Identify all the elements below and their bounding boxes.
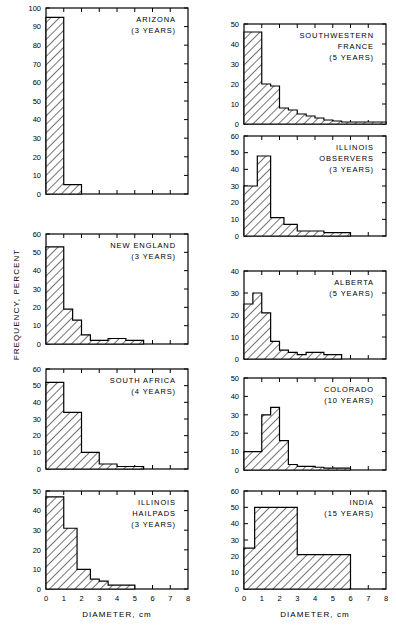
svg-text:0: 0 (235, 585, 239, 594)
svg-text:HAILPADS: HAILPADS (132, 509, 176, 518)
svg-text:INDIA: INDIA (349, 498, 374, 507)
svg-text:10: 10 (231, 215, 239, 224)
svg-text:40: 40 (231, 165, 239, 174)
svg-text:10: 10 (231, 568, 239, 577)
svg-text:6: 6 (348, 594, 352, 603)
svg-text:ARIZONA: ARIZONA (136, 15, 176, 24)
svg-text:30: 30 (33, 134, 41, 143)
svg-text:20: 20 (33, 303, 41, 312)
svg-text:1: 1 (62, 594, 66, 603)
svg-text:2: 2 (277, 594, 281, 603)
svg-text:30: 30 (231, 289, 239, 298)
svg-text:(3 YEARS): (3 YEARS) (131, 520, 176, 529)
svg-text:20: 20 (231, 80, 239, 89)
svg-text:0: 0 (235, 232, 239, 241)
svg-text:5: 5 (133, 594, 137, 603)
svg-text:40: 40 (33, 115, 41, 124)
svg-text:OBSERVERS: OBSERVERS (319, 154, 374, 163)
svg-text:60: 60 (33, 365, 41, 374)
svg-text:40: 40 (231, 519, 239, 528)
chart-panel-illinois-observers: 0102030405060ILLINOISOBSERVERS(3 YEARS) (198, 130, 396, 255)
chart-panel-southwestern-france: 01020304050SOUTHWESTERNFRANCE(5 YEARS) (198, 0, 396, 130)
svg-text:20: 20 (231, 198, 239, 207)
svg-text:(3 YEARS): (3 YEARS) (131, 252, 176, 261)
svg-text:0: 0 (235, 120, 239, 129)
chart-panel-arizona: 0102030405060708090100ARIZONA(3 YEARS) (0, 0, 198, 228)
svg-text:50: 50 (231, 374, 239, 383)
svg-text:40: 40 (33, 506, 41, 515)
svg-text:(10 YEARS): (10 YEARS) (324, 396, 374, 405)
svg-text:50: 50 (33, 97, 41, 106)
svg-text:30: 30 (33, 526, 41, 535)
svg-text:40: 40 (231, 392, 239, 401)
svg-text:10: 10 (231, 333, 239, 342)
svg-text:60: 60 (33, 78, 41, 87)
svg-text:DIAMETER, cm: DIAMETER, cm (82, 610, 152, 619)
svg-text:(3 YEARS): (3 YEARS) (131, 26, 176, 35)
svg-text:50: 50 (231, 20, 239, 29)
svg-text:ALBERTA: ALBERTA (334, 278, 374, 287)
svg-text:4: 4 (313, 594, 317, 603)
chart-panel-colorado: 01020304050COLORADO(10 YEARS) (198, 370, 396, 485)
svg-text:20: 20 (33, 546, 41, 555)
svg-text:3: 3 (97, 594, 101, 603)
chart-panel-illinois-hailpads: 01020304050ILLINOISHAILPADS(3 YEARS)0123… (0, 485, 198, 631)
svg-text:60: 60 (231, 132, 239, 141)
svg-text:ILLINOIS: ILLINOIS (138, 498, 176, 507)
svg-text:50: 50 (33, 381, 41, 390)
svg-text:40: 40 (231, 267, 239, 276)
svg-text:30: 30 (231, 182, 239, 191)
svg-text:50: 50 (231, 148, 239, 157)
svg-text:SOUTHWESTERN: SOUTHWESTERN (299, 31, 374, 40)
svg-text:6: 6 (150, 594, 154, 603)
svg-text:8: 8 (384, 594, 388, 603)
svg-text:30: 30 (33, 415, 41, 424)
svg-text:10: 10 (231, 100, 239, 109)
svg-text:(3 YEARS): (3 YEARS) (329, 165, 374, 174)
chart-panel-new-england: 0102030405060NEW ENGLAND(3 YEARS) (0, 228, 198, 363)
svg-text:100: 100 (28, 4, 41, 13)
svg-text:2: 2 (79, 594, 83, 603)
svg-text:0: 0 (235, 466, 239, 475)
svg-text:3: 3 (295, 594, 299, 603)
svg-text:NEW ENGLAND: NEW ENGLAND (110, 241, 176, 250)
svg-text:FRANCE: FRANCE (338, 42, 374, 51)
svg-text:8: 8 (186, 594, 190, 603)
svg-text:DIAMETER, cm: DIAMETER, cm (280, 610, 350, 619)
svg-text:60: 60 (33, 230, 41, 239)
hail-diameter-frequency-figure: FREQUENCY, PERCENT 010203040506070809010… (0, 0, 396, 631)
svg-text:80: 80 (33, 41, 41, 50)
svg-text:50: 50 (33, 487, 41, 496)
svg-text:40: 40 (231, 40, 239, 49)
svg-text:20: 20 (231, 311, 239, 320)
svg-text:30: 30 (33, 285, 41, 294)
right-panel-column: 01020304050SOUTHWESTERNFRANCE(5 YEARS)01… (198, 0, 396, 631)
svg-text:20: 20 (231, 552, 239, 561)
svg-text:4: 4 (115, 594, 119, 603)
chart-panel-india: 0102030405060INDIA(15 YEARS)012345678DIA… (198, 485, 396, 631)
left-panel-column: 0102030405060708090100ARIZONA(3 YEARS)01… (0, 0, 198, 631)
svg-text:1: 1 (260, 594, 264, 603)
svg-text:COLORADO: COLORADO (324, 385, 374, 394)
svg-text:20: 20 (33, 153, 41, 162)
svg-text:70: 70 (33, 60, 41, 69)
svg-text:0: 0 (37, 585, 41, 594)
svg-text:90: 90 (33, 22, 41, 31)
svg-text:30: 30 (231, 411, 239, 420)
svg-text:10: 10 (33, 448, 41, 457)
chart-panel-alberta: 010203040ALBERTA(5 YEARS) (198, 255, 396, 370)
svg-text:40: 40 (33, 266, 41, 275)
svg-text:(15 YEARS): (15 YEARS) (324, 509, 374, 518)
svg-text:SOUTH AFRICA: SOUTH AFRICA (110, 376, 176, 385)
svg-text:60: 60 (231, 487, 239, 496)
svg-text:40: 40 (33, 398, 41, 407)
svg-text:30: 30 (231, 536, 239, 545)
svg-text:0: 0 (37, 465, 41, 474)
svg-text:50: 50 (33, 248, 41, 257)
svg-text:20: 20 (33, 431, 41, 440)
svg-text:0: 0 (235, 355, 239, 364)
svg-text:5: 5 (331, 594, 335, 603)
chart-panel-south-africa: 0102030405060SOUTH AFRICA(4 YEARS) (0, 363, 198, 485)
svg-text:7: 7 (168, 594, 172, 603)
svg-text:50: 50 (231, 503, 239, 512)
